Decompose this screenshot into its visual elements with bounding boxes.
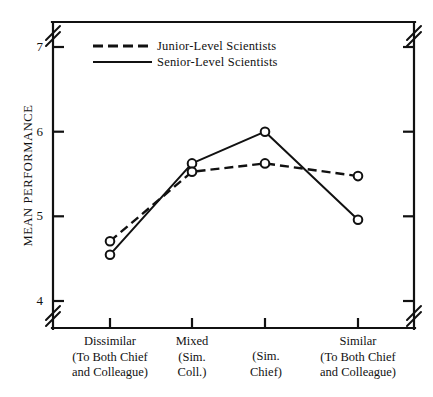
series-junior-level-scientists	[106, 159, 363, 245]
x-category-dissimilar: Dissimilar (To Both Chief and Colleague)	[40, 334, 180, 381]
x-cat-1-line2: (To Both Chief	[40, 350, 180, 366]
x-cat-2-line1: Mixed	[164, 334, 220, 350]
junior-point-sim-coll	[188, 168, 197, 177]
legend-label-senior: Senior-Level Scientists	[157, 55, 278, 70]
x-cat-2-line2: (Sim.	[164, 350, 220, 366]
senior-line-path	[110, 132, 358, 255]
junior-point-sim-chief	[261, 159, 270, 168]
junior-point-dissimilar	[106, 237, 115, 246]
x-cat-1-line1: Dissimilar	[40, 334, 180, 350]
y-tick-label-5: 5	[27, 208, 43, 224]
y-tick-label-7: 7	[27, 39, 43, 55]
y-tick-label-4: 4	[27, 293, 43, 309]
legend-label-junior: Junior-Level Scientists	[157, 39, 276, 54]
x-cat-3-line3: Chief)	[238, 365, 294, 381]
senior-point-sim-chief	[261, 127, 270, 136]
junior-point-similar	[354, 172, 363, 181]
x-cat-4-line1: Similar	[288, 334, 428, 350]
senior-point-dissimilar	[106, 250, 115, 259]
junior-line-path	[110, 163, 358, 241]
series-senior-level-scientists	[106, 127, 363, 259]
x-cat-1-line3: and Colleague)	[40, 365, 180, 381]
y-axis-title: MEAN PERFORMANCE	[21, 96, 36, 256]
x-cat-3-line2: (Sim.	[238, 349, 294, 365]
x-cat-2-line3: Coll.)	[164, 365, 220, 381]
axis-break-marks	[46, 26, 421, 326]
x-category-mixed-sim-coll: Mixed (Sim. Coll.)	[164, 334, 220, 381]
legend-swatches	[93, 46, 152, 62]
y-tick-label-6: 6	[27, 124, 43, 140]
x-cat-4-line2: (To Both Chief	[288, 350, 428, 366]
x-cat-4-line3: and Colleague)	[288, 365, 428, 381]
x-category-mixed-sim-chief: (Sim. Chief)	[238, 349, 294, 380]
x-axis-ticks	[110, 318, 358, 328]
senior-point-sim-coll	[188, 159, 197, 168]
chart-page: MEAN PERFORMANCE 7 6 5 4 Junior-Level Sc…	[0, 0, 433, 397]
senior-point-similar	[354, 215, 363, 224]
x-category-similar: Similar (To Both Chief and Colleague)	[288, 334, 428, 381]
